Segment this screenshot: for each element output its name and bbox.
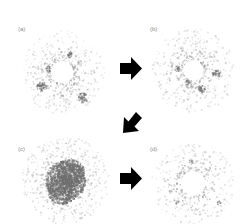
- arrow-right-icon: [120, 57, 142, 80]
- arrow-down-left-icon: [123, 111, 143, 133]
- arrow-right-icon: [120, 167, 142, 190]
- figure-canvas: (a) (b) (c) (d): [0, 0, 249, 224]
